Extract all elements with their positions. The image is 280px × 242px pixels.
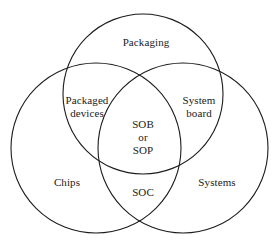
region-label-sob-or-sop-line-1: SOB [111, 118, 175, 131]
region-label-packaged-devices: Packaged devices [49, 94, 125, 120]
region-label-systems-line-1: Systems [184, 176, 250, 189]
venn-diagram: Packaging Packaged devices System board … [0, 0, 280, 242]
region-label-system-board: System board [163, 94, 235, 120]
region-label-sob-or-sop: SOB or SOP [111, 118, 175, 157]
region-label-chips-line-1: Chips [37, 176, 97, 189]
region-label-sob-or-sop-line-3: SOP [111, 144, 175, 157]
region-label-systems: Systems [184, 176, 250, 189]
region-label-system-board-line-1: System [163, 94, 235, 107]
region-label-sob-or-sop-line-2: or [111, 131, 175, 144]
region-label-soc-line-1: SOC [113, 186, 173, 199]
region-label-packaging: Packaging [103, 36, 189, 49]
region-label-packaging-line-1: Packaging [103, 36, 189, 49]
region-label-packaged-devices-line-1: Packaged [49, 94, 125, 107]
region-label-soc: SOC [113, 186, 173, 199]
region-label-chips: Chips [37, 176, 97, 189]
